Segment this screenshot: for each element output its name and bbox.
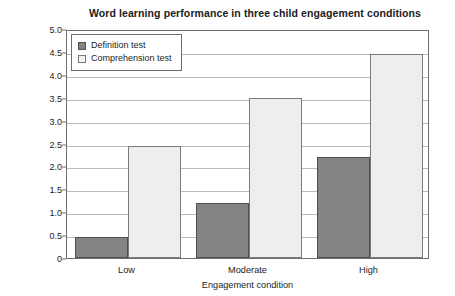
y-axis-tick-label: 3.0 (36, 117, 62, 127)
y-axis-tick-label: 5.0 (36, 25, 62, 35)
x-axis-tick-label: Low (118, 265, 135, 275)
x-axis-label: Engagement condition (66, 280, 429, 290)
x-axis-tick-label: Moderate (228, 265, 267, 275)
bar-low-definition (75, 237, 128, 258)
bar-high-comprehension (370, 54, 423, 258)
y-axis-tick-label: 1.5 (36, 185, 62, 195)
y-axis-tick-label: 4.5 (36, 48, 62, 58)
legend-label-comprehension: Comprehension test (91, 53, 172, 64)
y-axis-tick-label: 0.5 (36, 231, 62, 241)
legend-label-definition: Definition test (91, 40, 146, 51)
y-axis-label: Information units per word: definition t… (0, 30, 40, 259)
x-axis-tick-label: High (359, 265, 378, 275)
bar-moderate-comprehension (249, 98, 302, 258)
legend-item-comprehension-test: Comprehension test (78, 52, 172, 65)
legend-swatch-icon-comprehension (78, 55, 86, 63)
y-axis-tick-label: 3.5 (36, 94, 62, 104)
y-axis-tick-label: 4.0 (36, 71, 62, 81)
bar-moderate-definition (196, 203, 249, 258)
y-axis-tick-label: 0 (36, 254, 62, 264)
bar-high-definition (317, 157, 370, 258)
y-axis-tick-label: 2.5 (36, 140, 62, 150)
legend-item-definition-test: Definition test (78, 39, 172, 52)
bar-low-comprehension (128, 146, 181, 258)
y-axis-tick-label: 1.0 (36, 208, 62, 218)
chart-legend: Definition test Comprehension test (71, 34, 182, 71)
legend-swatch-icon-definition (78, 42, 86, 50)
chart-title: Word learning performance in three child… (60, 7, 450, 19)
chart-figure: Word learning performance in three child… (0, 0, 455, 296)
y-axis-tick-label: 2.0 (36, 162, 62, 172)
